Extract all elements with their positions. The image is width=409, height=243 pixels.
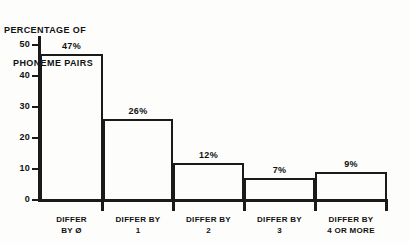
category-label-differ-by-0-line-1: DIFFER xyxy=(40,214,103,225)
category-label-differ-by-3-line-2: 3 xyxy=(244,225,315,236)
plot-area: 50 40 30 20 10 0 47% 26% 12% 7% 9% xyxy=(0,0,409,243)
category-label-differ-by-0: DIFFER BY Ø xyxy=(40,214,103,236)
category-label-differ-by-4-or-more-line-1: DIFFER BY xyxy=(313,214,389,225)
bar-differ-by-2 xyxy=(173,163,244,202)
bar-value-differ-by-4-or-more: 9% xyxy=(315,159,387,169)
category-label-differ-by-1: DIFFER BY 1 xyxy=(103,214,173,236)
y-axis-tick-0 xyxy=(32,199,39,201)
category-tick-5 xyxy=(385,199,388,211)
y-axis-label-30: 30 xyxy=(4,102,30,111)
category-tick-2 xyxy=(172,199,175,211)
category-label-differ-by-1-line-2: 1 xyxy=(103,225,173,236)
y-axis-label-20: 20 xyxy=(4,133,30,142)
y-axis-tick-10 xyxy=(32,168,39,170)
category-label-differ-by-2-line-2: 2 xyxy=(173,225,244,236)
y-axis-label-40: 40 xyxy=(4,71,30,80)
bar-value-differ-by-1: 26% xyxy=(103,106,173,116)
category-tick-3 xyxy=(243,199,246,211)
bar-differ-by-3 xyxy=(244,178,315,202)
y-axis-label-0: 0 xyxy=(4,195,30,204)
y-axis-label-50: 50 xyxy=(4,40,30,49)
y-axis-tick-40 xyxy=(32,75,39,77)
category-label-differ-by-1-line-1: DIFFER BY xyxy=(103,214,173,225)
y-axis-tick-20 xyxy=(32,137,39,139)
bar-differ-by-1 xyxy=(103,119,173,202)
bar-value-differ-by-2: 12% xyxy=(173,150,244,160)
category-label-differ-by-3: DIFFER BY 3 xyxy=(244,214,315,236)
category-label-differ-by-4-or-more: DIFFER BY 4 OR MORE xyxy=(313,214,389,236)
category-label-differ-by-3-line-1: DIFFER BY xyxy=(244,214,315,225)
category-label-differ-by-0-line-2: BY Ø xyxy=(40,225,103,236)
bar-value-differ-by-3: 7% xyxy=(244,165,315,175)
category-tick-4 xyxy=(314,199,317,211)
category-tick-1 xyxy=(101,199,104,211)
category-label-differ-by-4-or-more-line-2: 4 OR MORE xyxy=(313,225,389,236)
bar-differ-by-0 xyxy=(40,54,103,202)
category-label-differ-by-2-line-1: DIFFER BY xyxy=(173,214,244,225)
y-axis-tick-50 xyxy=(32,44,39,46)
y-axis-tick-30 xyxy=(32,106,39,108)
category-label-differ-by-2: DIFFER BY 2 xyxy=(173,214,244,236)
bar-differ-by-4-or-more xyxy=(315,172,387,202)
y-axis-label-10: 10 xyxy=(4,164,30,173)
bar-chart-figure: PERCENTAGE OF PHONEME PAIRS 50 40 30 20 … xyxy=(0,0,409,243)
bar-value-differ-by-0: 47% xyxy=(40,41,103,51)
